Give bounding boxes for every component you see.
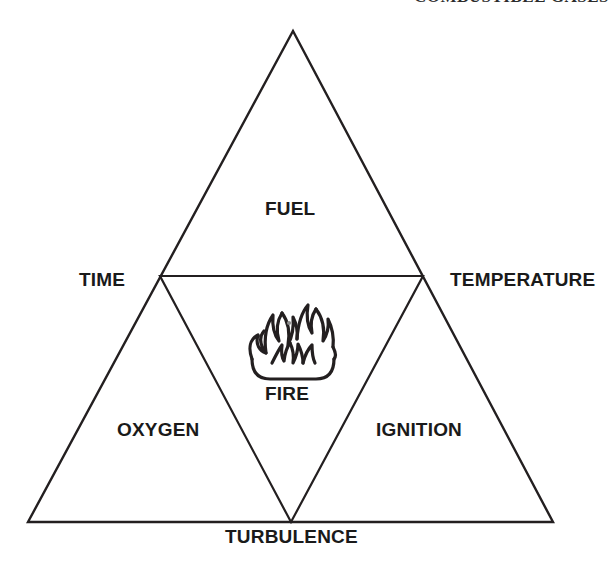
flame-spark-dot	[287, 321, 291, 325]
label-fire: FIRE	[265, 383, 309, 405]
flame-center-left-tongue	[282, 313, 297, 345]
label-fuel: FUEL	[265, 198, 315, 220]
flame-left-outer	[250, 331, 266, 359]
flame-inner-right	[303, 345, 315, 363]
flame-inner-center	[290, 343, 303, 363]
flame-center-tongue	[297, 305, 316, 339]
flame-right-outer	[333, 347, 335, 359]
flame-icon	[250, 305, 335, 379]
label-ignition: IGNITION	[376, 419, 462, 441]
label-oxygen: OXYGEN	[117, 419, 200, 441]
label-time: TIME	[79, 269, 125, 291]
fire-triangle-diagram: A B C COMBUSTIBLE GASES	[0, 0, 615, 571]
label-temperature: TEMPERATURE	[450, 269, 595, 291]
label-turbulence: TURBULENCE	[225, 526, 358, 548]
flame-right-tongue	[316, 309, 333, 347]
flame-inner-left	[272, 343, 290, 363]
